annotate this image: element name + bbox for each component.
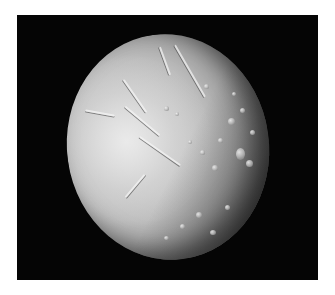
crater: [210, 230, 216, 235]
crater: [164, 236, 169, 240]
crater: [204, 84, 209, 89]
crater: [236, 148, 245, 160]
crater: [200, 150, 205, 155]
crater: [246, 160, 253, 167]
crater: [164, 106, 169, 111]
crater: [218, 138, 223, 143]
crater: [225, 205, 230, 210]
crater: [212, 165, 218, 171]
crater: [175, 112, 179, 116]
crater: [240, 108, 245, 113]
crater: [232, 92, 236, 96]
crater: [180, 224, 185, 229]
crater: [196, 212, 202, 218]
crater: [250, 130, 255, 135]
crater: [228, 118, 235, 125]
crater: [188, 140, 192, 144]
